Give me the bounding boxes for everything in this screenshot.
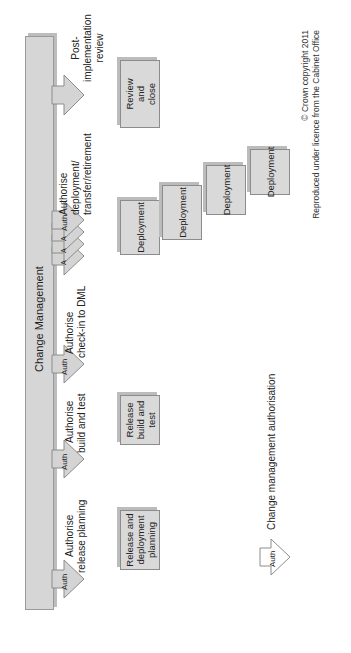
label-line: release planning: [76, 500, 88, 573]
review-and-close-box: Review and close: [120, 60, 160, 128]
auth-text-stacked: A: [60, 248, 67, 253]
box-line: Release and: [124, 513, 135, 566]
auth-text: Auth: [60, 574, 69, 590]
deployment-box: Deployment: [162, 185, 202, 240]
box-line: deployment: [135, 513, 146, 566]
deployment-box: Deployment: [120, 200, 160, 255]
change-management-bar: Change Management: [25, 36, 54, 610]
auth-text-stacked: A: [60, 260, 67, 265]
label-line: transfer/retirement: [82, 133, 94, 215]
authorise-deployment-label: Authorise deployment/ transfer/retiremen…: [58, 133, 94, 215]
authorise-release-planning-label: Authorise release planning: [64, 500, 88, 573]
box-line: and: [135, 78, 146, 109]
release-deployment-diagram: Change Management Auth Auth Authorise re…: [0, 0, 351, 653]
box-line: test: [146, 401, 157, 440]
post-implementation-review-label: Post- implementation review: [70, 3, 106, 93]
label-line: check-in to DML: [76, 286, 88, 358]
legend-text: Change management authorisation: [266, 374, 278, 530]
label-line: Authorise: [64, 394, 76, 454]
label-line: Authorise: [64, 286, 76, 358]
box-line: Review: [124, 78, 135, 109]
auth-text: Auth: [60, 359, 69, 375]
label-line: Authorise: [64, 500, 76, 573]
copyright-line: © Crown copyright 2011: [300, 30, 311, 300]
box-line: planning: [146, 513, 157, 566]
label-line: deployment/: [70, 133, 82, 215]
box-line: close: [146, 78, 157, 109]
legend-auth-text: Auth: [268, 551, 277, 567]
box-line: Release: [124, 401, 135, 440]
label-line: review: [94, 3, 106, 93]
deployment-box: Deployment: [206, 165, 246, 215]
auth-text-stacked: A: [60, 236, 67, 241]
auth-text: Auth: [60, 454, 69, 470]
label-line: implementation: [82, 3, 94, 93]
release-deployment-planning-box: Release and deployment planning: [120, 510, 160, 570]
authorise-build-test-label: Authorise build and test: [64, 394, 88, 454]
change-management-label: Change Management: [26, 259, 53, 379]
copyright-notice: © Crown copyright 2011 Reproduced under …: [300, 30, 322, 300]
deployment-box: Deployment: [250, 149, 290, 195]
box-line: build and: [135, 401, 146, 440]
box-label: Deployment: [221, 165, 232, 216]
box-label: Deployment: [265, 147, 276, 198]
copyright-line: Reproduced under licence from the Cabine…: [311, 30, 322, 300]
label-line: Authorise: [58, 133, 70, 215]
box-label: Deployment: [135, 202, 146, 253]
auth-text: Auth: [60, 215, 69, 231]
release-build-test-box: Release build and test: [120, 395, 160, 445]
box-label: Deployment: [177, 187, 188, 238]
authorise-check-in-dml-label: Authorise check-in to DML: [64, 286, 88, 358]
label-line: build and test: [76, 394, 88, 454]
label-line: Post-: [70, 3, 82, 93]
